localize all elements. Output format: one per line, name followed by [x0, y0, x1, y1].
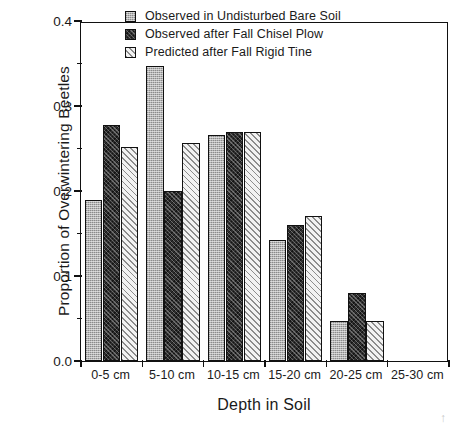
bar [348, 293, 366, 361]
scan-artifact: ↑ [440, 411, 450, 423]
x-axis-tick [326, 360, 328, 367]
y-axis-tick-major [74, 20, 82, 22]
y-axis-tick-label: 0.0 [53, 354, 72, 369]
bar [366, 321, 384, 361]
bar [164, 191, 182, 361]
x-axis-tick-label: 0-5 cm [91, 368, 130, 382]
y-axis-tick-label: 0.3 [53, 99, 72, 114]
bar [226, 132, 244, 362]
legend-label: Observed in Undisturbed Bare Soil [145, 9, 341, 23]
legend-item: Observed after Fall Chisel Plow [125, 26, 341, 42]
y-axis-tick-label: 0.1 [53, 269, 72, 284]
plot-area: 0.00.10.20.30.4 [80, 22, 448, 362]
y-axis-tick-minor [77, 233, 82, 235]
y-axis-tick-major [74, 275, 82, 277]
bar [182, 143, 200, 361]
x-axis-title: Depth in Soil [80, 396, 448, 414]
x-axis-tick [203, 360, 205, 367]
bar [208, 135, 226, 361]
bar [103, 125, 121, 361]
y-axis-tick-label: 0.2 [53, 184, 72, 199]
y-axis-tick-minor [77, 148, 82, 150]
x-axis-tick-label: 10-15 cm [207, 368, 260, 382]
y-axis-tick-major [74, 105, 82, 107]
y-axis-tick-minor [77, 63, 82, 65]
x-axis-tick-label: 15-20 cm [268, 368, 321, 382]
y-axis-tick-major [74, 190, 82, 192]
bar [287, 225, 305, 361]
bar [85, 200, 103, 362]
x-axis-tick [142, 360, 144, 367]
y-axis-tick-label: 0.4 [53, 14, 72, 29]
legend-label: Observed after Fall Chisel Plow [145, 27, 323, 41]
legend-item: Predicted after Fall Rigid Tine [125, 44, 341, 60]
x-axis-tick-label: 20-25 cm [330, 368, 383, 382]
chart-legend: Observed in Undisturbed Bare SoilObserve… [125, 8, 341, 62]
legend-label: Predicted after Fall Rigid Tine [145, 45, 312, 59]
bar [269, 240, 287, 361]
x-axis-tick-label: 25-30 cm [391, 368, 444, 382]
x-axis-tick [264, 360, 266, 367]
bar [146, 66, 164, 361]
x-axis-tick [80, 360, 82, 367]
y-axis-tick-minor [77, 318, 82, 320]
x-axis-tick [448, 360, 450, 367]
x-axis-tick [387, 360, 389, 367]
x-axis-tick-label: 5-10 cm [149, 368, 195, 382]
legend-swatch-icon [125, 47, 136, 58]
bar-chart-figure: Proportion of Overwintering Beetles 0.00… [0, 0, 462, 433]
bar [330, 321, 348, 361]
legend-swatch-icon [125, 11, 136, 22]
bar [121, 147, 139, 361]
legend-item: Observed in Undisturbed Bare Soil [125, 8, 341, 24]
legend-swatch-icon [125, 29, 136, 40]
bar [305, 216, 323, 361]
bar [244, 132, 262, 362]
